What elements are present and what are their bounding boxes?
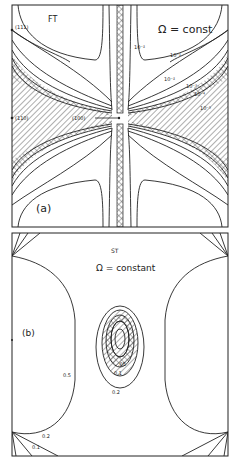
contour-label-0.1-center: 0.1 — [114, 370, 122, 376]
panel-a-condition: Ω = const — [158, 23, 213, 36]
contour-label-1e-2-center: 10⁻² — [134, 44, 145, 50]
contour-label-0.5: 0.5 — [63, 372, 71, 378]
contour-label-1e-1: 10⁻¹ — [170, 52, 181, 58]
contour-label-0.2-center: 0.2 — [112, 389, 120, 395]
panel-b: ST Ω = constant (b) 0.5 0.2 0.1 .05 0.2 … — [11, 233, 228, 456]
contour-label-1e-2: 10⁻² — [164, 76, 175, 82]
contour-label-0.2-corner: 0.2 — [42, 433, 50, 439]
panel-b-condition: Ω = constant — [96, 263, 156, 273]
contour-label-1e-5: 10⁻⁵ — [200, 105, 211, 111]
figure: FT Ω = const (a) (111) (110) (100) 10⁻¹ … — [0, 0, 240, 465]
panel-a-title: FT — [48, 15, 57, 24]
panel-a: FT Ω = const (a) (111) (110) (100) 10⁻¹ … — [11, 5, 228, 227]
panel-b-label: (b) — [22, 328, 35, 338]
panel-a-label: (a) — [36, 202, 51, 215]
label-111: (111) — [15, 24, 28, 30]
panel-b-title: ST — [111, 247, 119, 254]
contour-label-0.05: .05 — [118, 361, 126, 367]
contour-label-1e-4: 10⁻⁴ — [194, 91, 205, 97]
label-100: (100) — [72, 115, 85, 121]
contour-label-1e-3: 10⁻³ — [186, 83, 197, 89]
contour-label-0.1-corner: 0.1 — [32, 444, 40, 450]
label-110: (110) — [15, 115, 28, 121]
